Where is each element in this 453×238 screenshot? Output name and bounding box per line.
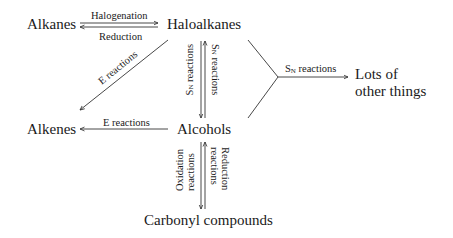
label-sn-left: SN reactions (184, 44, 197, 95)
lots-line-2: other things (355, 83, 426, 100)
label-sn-right: SN reactions (208, 44, 221, 95)
fork-upper-branch (248, 40, 278, 77)
node-alkenes: Alkenes (27, 121, 76, 138)
node-alkanes: Alkanes (27, 16, 76, 33)
label-sn-fork: SN reactions (285, 63, 336, 77)
label-reduction-reactions: Reductionreactions (209, 147, 231, 190)
fork-lower-branch (248, 77, 278, 118)
label-halogenation: Halogenation (91, 10, 148, 22)
node-alcohols: Alcohols (177, 121, 231, 138)
node-carbonyl-compounds: Carbonyl compounds (144, 212, 273, 229)
label-oxidation-reactions: Oxidationreactions (174, 149, 196, 191)
lots-line-1: Lots of (355, 66, 426, 83)
node-haloalkanes: Haloalkanes (167, 16, 241, 33)
e-reaction-diag-arrow (80, 40, 168, 110)
node-lots-of-other-things: Lots of other things (355, 66, 426, 100)
label-reduction: Reduction (99, 31, 142, 43)
reaction-arrows (0, 0, 453, 238)
label-e-reactions-horiz: E reactions (103, 117, 150, 129)
